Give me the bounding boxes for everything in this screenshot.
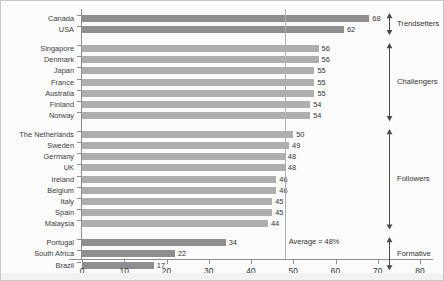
category-label: Spain [55,209,74,216]
bar-row: France55 [1,79,444,86]
bar [82,26,344,33]
bar-value-label: 48 [288,164,296,171]
bar [82,250,175,257]
category-label: Ireland [51,176,74,183]
bar [82,90,314,97]
category-label: Italy [60,198,74,205]
bar-value-label: 55 [317,90,325,97]
bar-row: Ireland46 [1,176,444,183]
x-axis-tick [251,260,252,264]
bar-row: Belgium46 [1,187,444,194]
bar-value-label: 62 [347,26,355,33]
plot-area: Canada68USA62Singapore56Denmark56Japan55… [1,1,444,281]
bar [82,56,319,63]
bar [82,101,310,108]
x-axis-tick [209,260,210,264]
group-label: Trendsetters [397,20,439,28]
bar-row: Italy45 [1,198,444,205]
category-label: USA [59,26,74,33]
group-bracket-arrow [385,13,394,35]
bar-value-label: 50 [296,131,304,138]
bar [82,239,226,246]
group-label: Challengers [397,78,438,86]
chart-figure: Canada68USA62Singapore56Denmark56Japan55… [0,0,444,281]
bar-row: USA62 [1,26,444,33]
bar-value-label: 56 [322,56,330,63]
x-axis-tick [378,260,379,264]
category-label: South Africa [34,250,74,257]
bar [82,153,285,160]
category-label: Germany [44,153,74,160]
bar [82,79,314,86]
x-axis-tick [336,260,337,264]
bar [82,187,276,194]
bar-row: Germany48 [1,153,444,160]
average-annotation-label: Average = 48% [289,238,340,246]
bar [82,131,293,138]
bar-row: Denmark56 [1,56,444,63]
bar-value-label: 46 [279,187,287,194]
bar-row: Portugal34 [1,239,444,246]
bar-row: Japan55 [1,67,444,74]
category-label: Japan [54,67,74,74]
bar-row: Finland54 [1,101,444,108]
bar-value-label: 49 [292,142,300,149]
group-label: Formative [397,250,431,258]
bar [82,209,272,216]
bar [82,198,272,205]
category-label: Portugal [46,239,74,246]
bar-row: UK48 [1,164,444,171]
category-label: Australia [45,90,74,97]
bar [82,45,319,52]
bar-value-label: 45 [275,209,283,216]
category-label: Canada [48,15,74,22]
category-label: Singapore [40,45,74,52]
bar-value-label: 34 [229,239,237,246]
x-axis-tick [293,260,294,264]
category-label: Denmark [44,56,74,63]
x-axis-tick [124,260,125,264]
bar-row: Spain45 [1,209,444,216]
category-label: Belgium [47,187,74,194]
category-label: Finland [50,101,74,108]
x-axis-tick [82,260,83,264]
bar [82,67,314,74]
bar-value-label: 44 [271,220,279,227]
bar [82,176,276,183]
bar-value-label: 68 [372,15,380,22]
bar-row: South Africa22 [1,250,444,257]
bar-row: Malaysia44 [1,220,444,227]
bar [82,142,289,149]
bar-value-label: 22 [178,250,186,257]
bar-value-label: 46 [279,176,287,183]
average-reference-line [285,9,286,259]
y-axis-line [81,9,82,259]
bar-row: Norway54 [1,112,444,119]
bar [82,15,369,22]
bar-row: The Netherlands50 [1,131,444,138]
bar [82,164,285,171]
bar-value-label: 54 [313,112,321,119]
bar-row: Canada68 [1,15,444,22]
group-bracket-arrow [385,129,394,230]
group-bracket-arrow [385,237,394,270]
category-tick [77,262,81,263]
bar-value-label: 45 [275,198,283,205]
x-axis-tick [420,260,421,264]
category-label: France [51,79,74,86]
bar [82,220,268,227]
category-label: Sweden [47,142,74,149]
category-label: UK [64,164,74,171]
bar-value-label: 48 [288,153,296,160]
group-bracket-arrow [385,43,394,121]
bar-value-label: 55 [317,79,325,86]
x-axis-tick [167,260,168,264]
bar-value-label: 55 [317,67,325,74]
bar-row: Australia55 [1,90,444,97]
bar-value-label: 56 [322,45,330,52]
category-label: The Netherlands [19,131,74,138]
category-label: Malaysia [45,220,74,227]
bar-row: Sweden49 [1,142,444,149]
bar-row: Singapore56 [1,45,444,52]
caption-band [1,273,444,281]
